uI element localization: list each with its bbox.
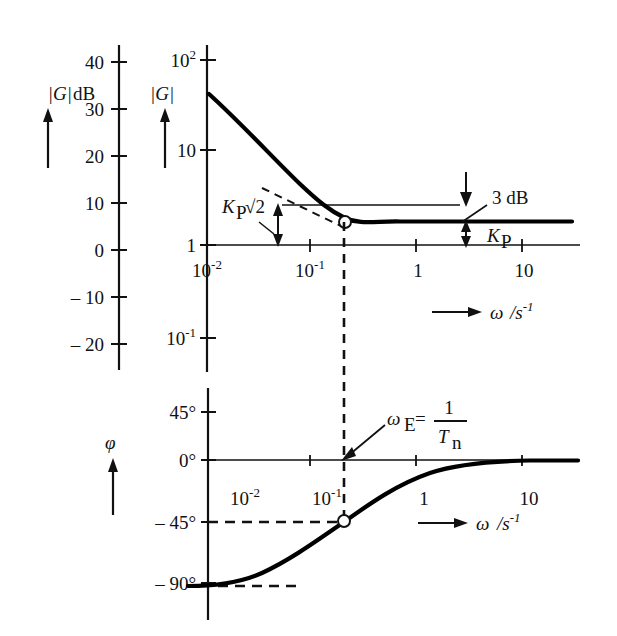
gain-tick-label-0p1: 10-1 [166, 325, 196, 349]
kp-sqrt2-annotation: K P √2 [221, 196, 274, 234]
kp-sqrt2-k: K [221, 196, 236, 217]
kp-annotation: K P [486, 225, 512, 252]
phase-x-tick-label-0p01: 10-2 [230, 485, 260, 509]
phase-axis-title: φ [105, 432, 116, 453]
phase-x-tick-label-10: 10 [520, 488, 539, 509]
omega-e-denominator-subscript: n [452, 432, 462, 453]
mx-0p01-mantissa: 10 [192, 260, 211, 281]
db-axis-arrow-icon [43, 108, 53, 168]
db-tick-label-0: 0 [95, 240, 105, 261]
magnitude-omega-symbol: ω [490, 302, 503, 323]
px-0p1-mantissa: 10 [312, 488, 331, 509]
phase-tick-label-neg90: – 90° [154, 573, 196, 594]
kp-label-k: K [486, 225, 501, 246]
magnitude-omega-unit: /s-1 [509, 299, 534, 323]
magnitude-x-tick-label-1: 1 [413, 260, 423, 281]
gain-tick-0p1-exponent: -1 [185, 325, 196, 340]
kp-double-arrow-icon [461, 220, 471, 248]
omega-e-annotation: ω E = 1 T n [341, 397, 467, 461]
gain-axis-title: |G| [150, 83, 174, 104]
gain-axis-arrow-icon [160, 108, 170, 168]
px-0p1-exponent: -1 [331, 485, 342, 500]
gain-tick-0p1-mantissa: 10 [166, 328, 185, 349]
px-unit-exponent: -1 [510, 510, 521, 525]
phase-tick-label-neg45: – 45° [154, 512, 196, 533]
phase-omega-axis-label: ω /s-1 [418, 510, 521, 534]
px-unit-base: /s [496, 513, 510, 534]
phase-tick-label-0: 0° [179, 450, 196, 471]
omega-e-equals: = [415, 408, 426, 429]
gain-tick-100-exponent: 2 [190, 47, 197, 62]
px-0p01-exponent: -2 [249, 485, 260, 500]
db-axis [111, 45, 127, 370]
kp-label-subscript: P [501, 231, 512, 252]
phase-x-tick-label-0p1: 10-1 [312, 485, 342, 509]
mx-0p1-exponent: -1 [314, 257, 325, 272]
phase-axis-arrow-icon [108, 458, 118, 515]
kp-sqrt2-radical: √2 [245, 196, 265, 217]
gain-tick-label-10: 10 [177, 140, 196, 161]
gain-tick-label-100: 102 [171, 47, 197, 71]
three-db-annotation: 3 dB [460, 172, 528, 222]
figure-canvas: 40 30 20 10 0 – 10 – 20 |G| dB 102 10 1 … [0, 0, 617, 636]
magnitude-omega-axis-label: ω /s-1 [432, 299, 534, 323]
phase-tick-label-45: 45° [169, 402, 196, 423]
db-tick-label-40: 40 [85, 52, 104, 73]
gain-tick-100-mantissa: 10 [171, 50, 190, 71]
mx-0p01-exponent: -2 [211, 257, 222, 272]
magnitude-x-tick-label-0p01: 10-2 [192, 257, 222, 281]
magnitude-x-tick-label-10: 10 [515, 260, 534, 281]
phase-omega-symbol: ω [476, 513, 489, 534]
db-tick-label-neg10: – 10 [70, 287, 104, 308]
magnitude-x-tick-label-0p1: 10-1 [295, 257, 325, 281]
omega-e-denominator: T [438, 426, 450, 447]
omega-e-subscript: E [404, 414, 416, 435]
three-db-label: 3 dB [492, 187, 528, 208]
magnitude-asymptote-dashed [262, 188, 345, 228]
magnitude-omega-axis [201, 239, 580, 252]
mx-unit-base: /s [509, 302, 523, 323]
phase-x-tick-label-1: 1 [419, 488, 429, 509]
phase-corner-frequency-marker [338, 515, 350, 527]
omega-e-symbol: ω [387, 408, 400, 429]
phase-omega-unit: /s-1 [496, 510, 521, 534]
kp-sqrt2-double-arrow-icon [273, 203, 283, 247]
gain-tick-label-1: 1 [187, 235, 197, 256]
omega-e-numerator: 1 [444, 397, 454, 418]
mx-0p1-mantissa: 10 [295, 260, 314, 281]
db-axis-title-symbol: |G| [48, 83, 72, 104]
db-tick-label-10: 10 [85, 193, 104, 214]
db-tick-label-neg20: – 20 [70, 334, 104, 355]
mx-unit-exponent: -1 [523, 299, 534, 314]
db-axis-unit: dB [73, 83, 95, 104]
bode-diagram-figure: 40 30 20 10 0 – 10 – 20 |G| dB 102 10 1 … [0, 0, 617, 636]
db-tick-label-20: 20 [85, 146, 104, 167]
px-0p01-mantissa: 10 [230, 488, 249, 509]
